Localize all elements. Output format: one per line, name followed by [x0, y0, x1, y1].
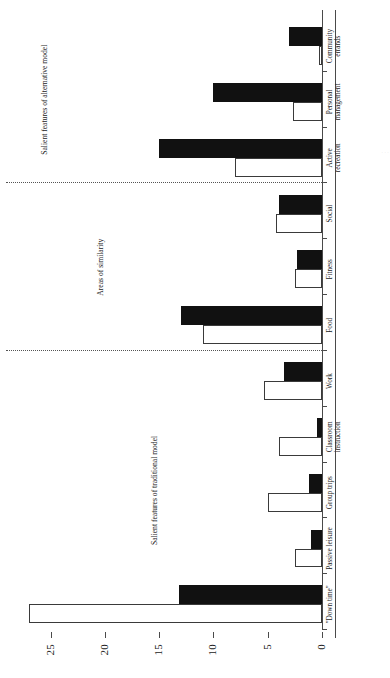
bar-open — [295, 549, 322, 568]
value-tick — [105, 632, 106, 638]
value-tick — [268, 632, 269, 638]
chart-page: 0510152025 "Down time"Passive leisureGro… — [0, 0, 390, 678]
bar-filled — [159, 139, 322, 158]
bar-open — [29, 604, 322, 623]
bar-filled — [284, 362, 322, 381]
rotated-figure-frame: 0510152025 "Down time"Passive leisureGro… — [0, 0, 390, 678]
group-separator — [6, 350, 324, 351]
category-label: Community errands — [326, 4, 342, 88]
bar-open — [235, 158, 322, 177]
value-tick — [213, 632, 214, 638]
bar-open — [276, 214, 322, 233]
bar-open — [268, 493, 322, 512]
value-baseline — [322, 10, 323, 630]
value-tick — [322, 632, 323, 638]
bar-filled — [317, 418, 322, 437]
bar-filled — [279, 195, 322, 214]
bar-filled — [289, 27, 322, 46]
value-tick — [159, 632, 160, 638]
value-tick-label: 5 — [261, 644, 273, 650]
group-separator — [6, 182, 324, 183]
edge-caption: · · · — [382, 150, 390, 155]
bar-chart-figure: 0510152025 "Down time"Passive leisureGro… — [0, 0, 390, 678]
bar-open — [264, 381, 322, 400]
bar-filled — [309, 474, 322, 493]
value-tick-label: 10 — [206, 644, 218, 655]
bar-filled — [297, 250, 322, 269]
value-tick-label: 20 — [98, 644, 110, 655]
bar-open — [279, 437, 322, 456]
bar-open — [203, 325, 322, 344]
value-tick-label: 15 — [152, 644, 164, 655]
group-annotation-label: Areas of similarity — [96, 239, 105, 296]
bar-open — [295, 269, 322, 288]
bar-filled — [179, 585, 322, 604]
bar-open — [319, 46, 322, 65]
bar-filled — [213, 83, 322, 102]
bar-filled — [311, 530, 322, 549]
bar-filled — [181, 306, 322, 325]
group-annotation-label: Salient features of alternative model — [40, 45, 49, 155]
bar-open — [293, 102, 322, 121]
group-annotation-label: Salient features of traditional model — [150, 436, 159, 545]
value-tick — [51, 632, 52, 638]
value-tick-label: 25 — [44, 644, 56, 655]
